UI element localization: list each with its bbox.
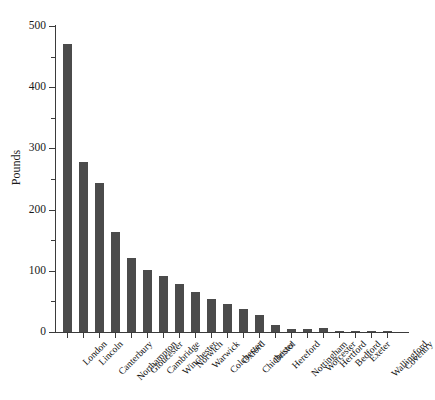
x-tick bbox=[227, 333, 228, 338]
x-tick bbox=[275, 333, 276, 338]
bar bbox=[303, 329, 312, 332]
x-tick bbox=[387, 333, 388, 338]
x-tick bbox=[99, 333, 100, 338]
y-tick-label: 500 bbox=[2, 20, 46, 31]
bar bbox=[383, 331, 392, 332]
x-tick bbox=[307, 333, 308, 338]
bar bbox=[159, 276, 168, 332]
x-tick bbox=[115, 333, 116, 338]
y-tick-label: 0 bbox=[2, 326, 46, 337]
y-tick-label: 100 bbox=[2, 265, 46, 276]
x-tick bbox=[179, 333, 180, 338]
y-tick-label-wrap: 500 bbox=[0, 20, 46, 31]
x-tick bbox=[195, 333, 196, 338]
y-tick-label-wrap: 200 bbox=[0, 204, 46, 215]
y-tick-minor bbox=[51, 179, 55, 180]
x-tick bbox=[355, 333, 356, 338]
x-tick bbox=[163, 333, 164, 338]
bar bbox=[287, 329, 296, 332]
bar bbox=[319, 328, 328, 332]
y-tick-label-wrap: 300 bbox=[0, 142, 46, 153]
cropped-header-strip bbox=[0, 0, 422, 9]
bar bbox=[223, 304, 232, 332]
y-tick-label: 200 bbox=[2, 204, 46, 215]
y-tick-label: 300 bbox=[2, 142, 46, 153]
bar bbox=[255, 315, 264, 332]
x-tick bbox=[339, 333, 340, 338]
y-tick-major bbox=[49, 210, 55, 211]
y-tick-label-wrap: 0 bbox=[0, 326, 46, 337]
x-tick bbox=[83, 333, 84, 338]
y-tick-label: 400 bbox=[2, 81, 46, 92]
bar bbox=[79, 162, 88, 332]
bars-layer bbox=[56, 26, 408, 332]
y-tick-minor bbox=[51, 240, 55, 241]
y-tick-major bbox=[49, 332, 55, 333]
bar bbox=[271, 325, 280, 332]
bar bbox=[207, 299, 216, 332]
x-tick bbox=[147, 333, 148, 338]
x-tick bbox=[131, 333, 132, 338]
bar bbox=[63, 44, 72, 332]
bar bbox=[143, 270, 152, 332]
x-tick bbox=[323, 333, 324, 338]
y-tick-major bbox=[49, 148, 55, 149]
bar bbox=[351, 331, 360, 332]
y-tick-minor bbox=[51, 301, 55, 302]
y-tick-major bbox=[49, 26, 55, 27]
y-tick-label-wrap: 400 bbox=[0, 81, 46, 92]
y-tick-minor bbox=[51, 118, 55, 119]
y-tick-major bbox=[49, 271, 55, 272]
y-tick-minor bbox=[51, 57, 55, 58]
x-tick bbox=[243, 333, 244, 338]
bar bbox=[191, 292, 200, 332]
bar bbox=[95, 183, 104, 332]
bar bbox=[127, 258, 136, 332]
y-tick-major bbox=[49, 87, 55, 88]
x-tick bbox=[371, 333, 372, 338]
bar bbox=[111, 232, 120, 332]
x-tick bbox=[211, 333, 212, 338]
bar bbox=[367, 331, 376, 332]
y-tick-label-wrap: 100 bbox=[0, 265, 46, 276]
x-tick bbox=[291, 333, 292, 338]
x-tick bbox=[67, 333, 68, 338]
bar bbox=[175, 284, 184, 332]
bar bbox=[335, 331, 344, 332]
bar bbox=[239, 309, 248, 332]
y-axis-title: Pounds bbox=[9, 128, 24, 208]
